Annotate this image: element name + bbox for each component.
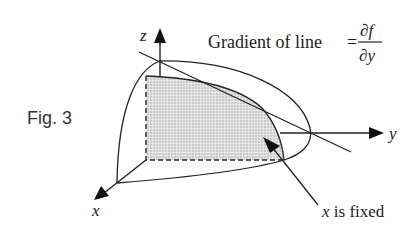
equation-equals: = [347, 32, 357, 52]
annotation-text: is fixed [330, 202, 385, 221]
equation-denominator: ∂y [359, 46, 375, 65]
z-axis-label: z [139, 26, 147, 45]
shaded-cross-section [146, 76, 284, 160]
x-axis-arrowhead [94, 186, 109, 200]
z-axis-arrowhead [154, 28, 166, 43]
y-axis-label: y [387, 124, 397, 143]
annotation-x-is-fixed: x is fixed [321, 202, 385, 221]
equation-numerator: ∂f [360, 21, 375, 40]
x-axis-label: x [91, 201, 100, 220]
x-axis [104, 160, 146, 193]
equation-text: Gradient of line [208, 32, 322, 52]
y-axis-arrowhead [369, 127, 384, 139]
diagram-3d-surface: z y x x is fixed Gradient of line = ∂f ∂… [0, 0, 419, 236]
